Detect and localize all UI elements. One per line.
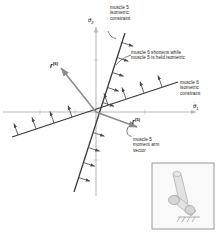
axis-label-theta1-base: θ <box>193 103 196 109</box>
moment-arm-vector-r5 <box>96 112 137 127</box>
axis-label-theta1: ̇ θ1 <box>193 103 199 111</box>
vector-label-r6: r(6) <box>50 61 58 69</box>
annotation-muscle-5-isometric: muscle 5 isometric constraint <box>110 5 130 21</box>
leader-muscle-5-isometric <box>108 31 116 39</box>
figure-canvas: muscle 5 isometric constraint muscle 6 s… <box>0 0 222 235</box>
axis-label-theta1-sub: 1 <box>196 106 198 111</box>
vector-label-r5: r(5) <box>132 117 140 125</box>
limb-linkage-inset <box>152 163 214 229</box>
axis-label-theta2: ̇ θ2 <box>88 17 94 25</box>
annotation-muscle-6-isometric: muscle 6 isometric constraint <box>180 80 200 96</box>
diagram-vector-layer <box>0 0 222 235</box>
annotation-muscle-6-shortens: muscle 6 shortens while muscle 5 is held… <box>131 50 185 61</box>
leader-muscle-5-moment-arm <box>127 127 132 137</box>
axis-label-theta2-base: θ <box>88 17 91 23</box>
moment-arm-vector-r6 <box>61 68 96 112</box>
annotation-muscle-5-moment-arm: muscle 5 moment arm vector <box>133 137 159 153</box>
axis-label-theta2-sub: 2 <box>91 20 93 25</box>
vector-label-r6-sup: (6) <box>53 61 58 66</box>
vector-label-r5-sup: (5) <box>135 117 140 122</box>
